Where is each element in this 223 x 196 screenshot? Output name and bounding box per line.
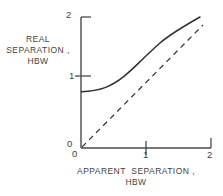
y-axis-title-line-2: SEPARATION , (2, 45, 74, 56)
x-axis-title-line-2: HBW (52, 177, 220, 188)
y-axis-title-line-3: HBW (2, 56, 74, 67)
y-axis-title-line-1: REAL (2, 34, 74, 45)
real-separation-curve (82, 17, 201, 92)
x-axis-title-line-1: APPARENT SEPARATION , (52, 166, 220, 177)
x-axis-tick-label-1: 1 (143, 150, 148, 160)
x-axis-tick-label-2: 2 (207, 150, 212, 160)
unity-reference-line (82, 25, 203, 147)
chart-figure: REAL SEPARATION , HBW APPARENT SEPARATIO… (0, 0, 223, 196)
x-axis-tick-label-0: 0 (72, 149, 77, 159)
x-axis-title: APPARENT SEPARATION , HBW (52, 166, 220, 188)
y-axis-tick-label-2: 2 (66, 10, 71, 20)
y-axis-title: REAL SEPARATION , HBW (2, 34, 74, 67)
y-axis-tick-label-1: 1 (69, 71, 74, 81)
